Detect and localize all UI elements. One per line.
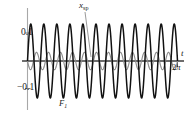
plot-canvas <box>0 0 192 116</box>
curve-label-f1-subscript: 1 <box>64 103 67 109</box>
x-axis-tick-label-2pi: 2π <box>172 63 181 72</box>
y-axis-tick-label-positive: 0.1 <box>21 28 33 38</box>
x-axis-name-label: t <box>181 49 184 58</box>
curve-label-x-sp: xsp <box>79 1 88 11</box>
curve-label-f1: F1 <box>59 99 67 109</box>
oscillation-figure: 0.1 −0.1 xsp F1 t 2π <box>0 0 192 116</box>
x-axis-tick-label-2pi-unit: π <box>176 62 180 72</box>
curve-label-x-sp-subscript: sp <box>83 5 88 11</box>
y-axis-tick-label-negative: −0.1 <box>17 83 34 93</box>
